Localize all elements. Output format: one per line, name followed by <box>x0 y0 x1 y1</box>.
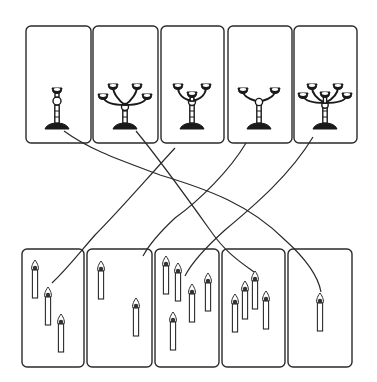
candle-icon <box>317 293 324 331</box>
bottom-row <box>22 249 352 367</box>
candlestick-card-4[interactable] <box>228 26 292 143</box>
candle-card-4[interactable] <box>222 249 285 367</box>
candlestick-card-3[interactable] <box>161 26 224 143</box>
top-row <box>26 26 357 143</box>
candlestick-card-1[interactable] <box>26 26 91 143</box>
candle-card-2[interactable] <box>87 249 152 367</box>
candlestick-card-5[interactable] <box>294 26 357 143</box>
candle-card-5[interactable] <box>288 249 352 367</box>
candle-card-1[interactable] <box>22 249 84 367</box>
matching-diagram <box>0 0 377 382</box>
candle-card-3[interactable] <box>155 249 219 367</box>
candlestick-card-2[interactable] <box>93 26 158 143</box>
